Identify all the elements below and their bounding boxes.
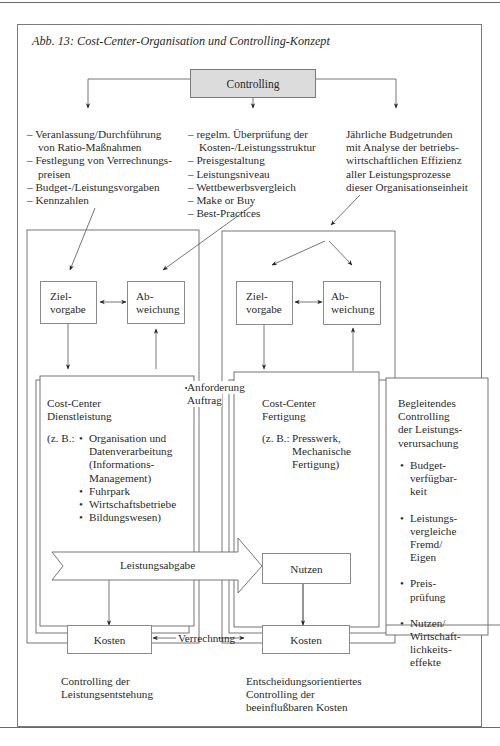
leistungsabgabe-label: Leistungsabgabe	[120, 559, 195, 572]
side-panel-bullets: • Budget- verfügbar- keit • Leistungs- v…	[400, 459, 461, 670]
cost-center-dienstleistung-examples: (z. B.: • Organisation und Datenverarbei…	[47, 432, 176, 524]
middle-branch-item-cont: Kosten-/Leistungsstruktur	[188, 141, 316, 154]
middle-branch-list: regelm. Überprüfung der Kosten-/Leistung…	[188, 128, 316, 220]
nutzen-box: Nutzen	[262, 553, 351, 584]
left-branch-item: Budget-/Leistungsvorgaben	[27, 181, 172, 194]
auftrag-label: Auftrag	[187, 394, 222, 407]
cost-center-fertigung-title: Cost-Center Fertigung	[262, 397, 316, 423]
verrechnung-label: Verrechnung	[178, 632, 235, 645]
left-branch-item: Veranlassung/Durchführung	[27, 128, 172, 141]
middle-branch-item: Make or Buy	[188, 194, 316, 207]
middle-branch-item: Best-Practices	[188, 207, 316, 220]
left-caption: Controlling der Leistungsentstehung	[61, 675, 153, 701]
left-kosten-box: Kosten	[67, 625, 152, 654]
left-branch-item: Kennzahlen	[27, 194, 172, 207]
middle-branch-item: regelm. Überprüfung der	[188, 128, 316, 141]
left-branch-list: Veranlassung/Durchführung von Ratio-Maßn…	[27, 128, 172, 207]
middle-branch-item: Leistungsniveau	[188, 168, 316, 181]
left-zielvorgabe-box: Ziel- vorgabe	[40, 281, 97, 324]
controlling-label: Controlling	[226, 78, 279, 90]
cost-center-fertigung-examples: (z. B.: Presswerk, Mechanische Fertigung…	[262, 432, 351, 472]
right-caption: Entscheidungsorientiertes Controlling de…	[246, 675, 362, 715]
cost-center-dienstleistung-title: Cost-Center Dienstleistung	[47, 397, 112, 423]
left-branch-item-cont: preisen	[27, 168, 172, 181]
right-kosten-box: Kosten	[262, 625, 350, 654]
left-abweichung-box: Ab- weichung	[127, 281, 185, 324]
middle-branch-item: Preisgestaltung	[188, 154, 316, 167]
right-zielvorgabe-box: Ziel- vorgabe	[236, 281, 293, 325]
middle-branch-item: Wettbewerbsvergleich	[188, 181, 316, 194]
side-panel-title: Begleitendes Controlling der Leistungs- …	[398, 397, 462, 450]
left-branch-item-cont: von Ratio-Maßnahmen	[27, 141, 172, 154]
right-abweichung-box: Ab- weichung	[323, 281, 381, 325]
anforderung-label: Anforderung	[187, 381, 245, 394]
controlling-box: Controlling	[190, 69, 316, 98]
right-branch-text: Jährliche Budgetrunden mit Analyse der b…	[346, 128, 468, 194]
left-branch-item: Festlegung von Verrechnungs-	[27, 154, 172, 167]
